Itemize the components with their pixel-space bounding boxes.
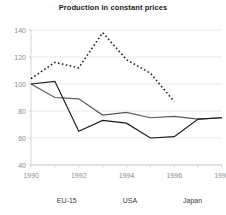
ytick-label: 80 <box>18 108 26 115</box>
legend-label: EU-15 <box>57 197 77 204</box>
xtick-label: 1994 <box>119 172 135 179</box>
chart-legend: EU-15USAJapan <box>0 192 226 208</box>
xtick-label: 1998 <box>214 172 226 179</box>
ytick-label: 40 <box>18 162 26 169</box>
legend-item-japan[interactable]: Japan <box>150 197 202 204</box>
ytick-label: 140 <box>14 27 26 34</box>
xtick-label: 1992 <box>71 172 87 179</box>
legend-label: USA <box>123 197 137 204</box>
series-line-eu-15 <box>31 84 222 119</box>
series-line-japan <box>31 33 174 102</box>
series-line-usa <box>31 81 222 138</box>
xtick-label: 1990 <box>23 172 39 179</box>
ytick-label: 120 <box>14 54 26 61</box>
ytick-label: 60 <box>18 135 26 142</box>
ytick-label: 100 <box>14 81 26 88</box>
xtick-label: 1996 <box>166 172 182 179</box>
chart-plot-area: 40608010012014019901992199419961998 <box>0 0 226 215</box>
legend-item-eu-15[interactable]: EU-15 <box>24 197 77 204</box>
legend-label: Japan <box>183 197 202 204</box>
chart-container: Production in constant prices 4060801001… <box>0 0 226 215</box>
legend-item-usa[interactable]: USA <box>90 197 137 204</box>
